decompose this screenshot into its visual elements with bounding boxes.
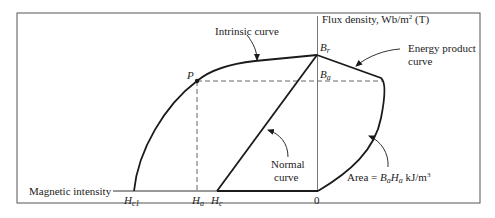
hc-label: Hc xyxy=(211,194,223,206)
intrinsic-curve-label: Intrinsic curve xyxy=(215,25,279,37)
ba-label: Ba xyxy=(320,68,331,80)
intrinsic-curve-pointer xyxy=(247,35,257,60)
energy-product-label-line1: Energy product xyxy=(408,42,476,54)
y-axis-label-unit: (T) xyxy=(412,13,429,25)
hc1-label: Hc1 xyxy=(124,194,140,206)
energy-product-label-line2: curve xyxy=(408,55,432,67)
point-p-marker xyxy=(195,79,199,83)
p-label: P xyxy=(187,69,194,81)
energy-product-pointer xyxy=(356,49,400,66)
area-label: Area = BaHa kJ/m3 xyxy=(347,171,430,183)
origin-label: 0 xyxy=(314,194,320,206)
y-axis-label-text: Flux density, Wb/m xyxy=(322,13,409,25)
normal-curve xyxy=(217,55,317,191)
normal-curve-label-line1: Normal xyxy=(271,158,305,170)
br-label: Br xyxy=(320,41,330,53)
normal-curve-pointer xyxy=(268,130,288,157)
ha-label: Ha xyxy=(192,194,204,206)
x-axis-label: Magnetic intensity xyxy=(29,185,111,197)
y-axis-label: Flux density, Wb/m2 (T) xyxy=(322,13,429,25)
normal-curve-label-line2: curve xyxy=(274,171,298,183)
